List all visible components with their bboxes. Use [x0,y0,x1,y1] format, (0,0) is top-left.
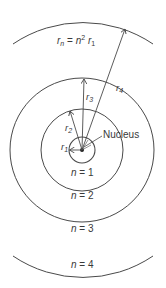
orbit-n3-label: n = 3 [71,223,94,234]
radius-r2-label: r2 [65,122,72,134]
radius-r4-label: r4 [116,82,123,94]
orbit-n4-label: n = 4 [71,259,94,270]
radius-r3-arrow [82,79,84,150]
radius-r3-label: r3 [86,91,93,103]
orbit-n1-label: n = 1 [71,167,94,178]
formula-label: rn = n2 r1 [57,34,95,47]
orbit-n2-label: n = 2 [71,190,94,201]
bohr-orbit-diagram: rn = n2 r1 r4 r3 r2 r1 Nucleus n = 1 n =… [0,0,166,288]
radius-r1-label: r1 [61,141,68,153]
nucleus-label: Nucleus [103,129,139,140]
